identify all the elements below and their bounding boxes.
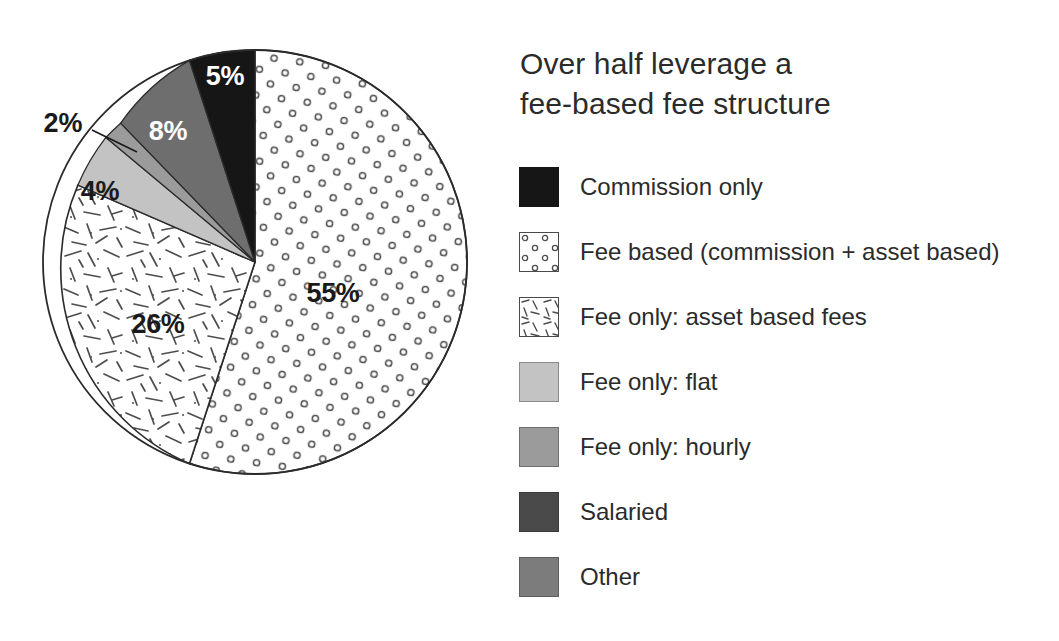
legend-panel: Over half leverage a fee-based fee struc… [500,0,1059,641]
legend-label-fee-based: Fee based (commission + asset based) [580,238,1000,266]
chart-title-line-1: Over half leverage a [520,44,1040,84]
pie-label-hourly: 2% [43,108,82,138]
pie-chart-panel: 55% 26% 4% 2% 8% 5% [0,0,500,641]
legend-item-fee-based[interactable]: Fee based (commission + asset based) [519,231,1059,272]
legend-swatch-flat-icon [519,362,559,402]
legend-list: Commission only Fee based (commission + … [519,166,1059,597]
chart-title-line-2: fee-based fee structure [520,84,1040,124]
legend-item-flat[interactable]: Fee only: flat [519,361,1059,402]
legend-label-asset-based: Fee only: asset based fees [580,303,867,331]
legend-item-other[interactable]: Other [519,556,1059,597]
legend-swatch-fee-based-icon [519,232,559,272]
legend-item-salaried[interactable]: Salaried [519,491,1059,532]
legend-swatch-hourly-icon [519,427,559,467]
pie-chart-svg: 55% 26% 4% 2% 8% 5% [0,0,500,641]
legend-item-asset-based[interactable]: Fee only: asset based fees [519,296,1059,337]
legend-swatch-salaried-icon [519,492,559,532]
legend-item-commission-only[interactable]: Commission only [519,166,1059,207]
legend-swatch-commission-only-icon [519,167,559,207]
legend-label-commission-only: Commission only [580,173,763,201]
legend-item-hourly[interactable]: Fee only: hourly [519,426,1059,467]
pie-label-other: 8% [149,116,188,146]
legend-label-salaried: Salaried [580,498,668,526]
chart-title: Over half leverage a fee-based fee struc… [520,44,1040,124]
chart-page: 55% 26% 4% 2% 8% 5% Over half leverage a… [0,0,1059,641]
pie-label-commission-only: 5% [206,61,245,91]
legend-label-other: Other [580,563,640,591]
legend-label-flat: Fee only: flat [580,368,717,396]
pie-label-asset-based: 26% [131,309,184,339]
legend-swatch-other-icon [519,557,559,597]
legend-label-hourly: Fee only: hourly [580,433,751,461]
pie-label-fee-based: 55% [306,278,359,308]
pie-label-flat: 4% [81,176,120,206]
legend-swatch-asset-based-icon [519,297,559,337]
